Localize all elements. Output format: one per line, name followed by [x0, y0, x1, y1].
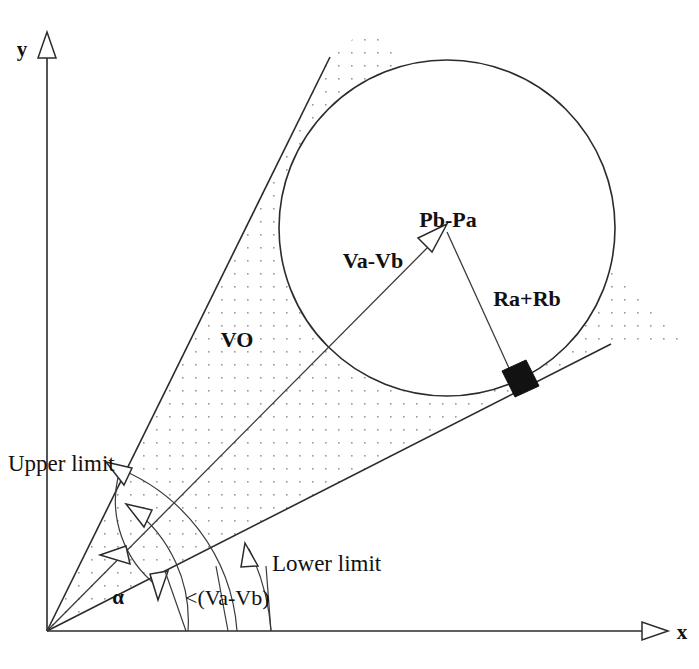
figure-root: y x Va-Vb Pb-Pa Ra+Rb VO: [0, 0, 699, 669]
x-axis-label: x: [677, 620, 688, 644]
ra-rb-label: Ra+Rb: [493, 286, 561, 311]
velocity-obstacle-diagram: y x Va-Vb Pb-Pa Ra+Rb VO: [0, 0, 699, 669]
upper-limit-label: Upper limit: [8, 451, 115, 476]
alpha-label: α: [112, 585, 124, 609]
lower-limit-label: Lower limit: [272, 551, 382, 576]
va-vb-label: Va-Vb: [343, 248, 403, 273]
angle-va-vb-label: <(Va-Vb): [185, 585, 270, 610]
y-axis-label: y: [17, 37, 28, 61]
pb-pa-label: Pb-Pa: [419, 207, 476, 232]
vo-region-label: VO: [221, 327, 254, 352]
